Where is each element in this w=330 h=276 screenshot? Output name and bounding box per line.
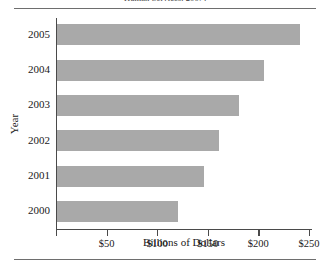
- chart-figure: Human Services, 2007) Year 2005200420032…: [0, 0, 330, 276]
- y-tick-label-2005: 2005: [28, 29, 50, 40]
- bar-2003: [57, 95, 239, 116]
- y-axis-label-wrap: Year: [16, 18, 18, 230]
- y-axis-label: Year: [8, 114, 20, 134]
- y-tick-label-2000: 2000: [28, 205, 50, 216]
- bar-2004: [57, 60, 264, 81]
- bar-2000: [57, 201, 178, 222]
- divider-top: [14, 8, 316, 9]
- bar-2002: [57, 130, 219, 151]
- y-tick-label-2001: 2001: [28, 170, 50, 181]
- y-tick-label-2003: 2003: [28, 99, 50, 110]
- y-axis-line: [56, 18, 57, 230]
- y-tick-label-2002: 2002: [28, 135, 50, 146]
- bar-2001: [57, 166, 204, 187]
- plot-area: 200520042003200220012000$50$100$150$200$…: [56, 18, 312, 230]
- bar-2005: [57, 24, 300, 45]
- divider-bottom: [14, 259, 316, 260]
- x-axis-label: Billions of Dollars: [56, 236, 312, 248]
- chart-title: Human Services, 2007): [0, 0, 330, 1]
- y-tick-label-2004: 2004: [28, 64, 50, 75]
- x-axis-line: [56, 229, 312, 230]
